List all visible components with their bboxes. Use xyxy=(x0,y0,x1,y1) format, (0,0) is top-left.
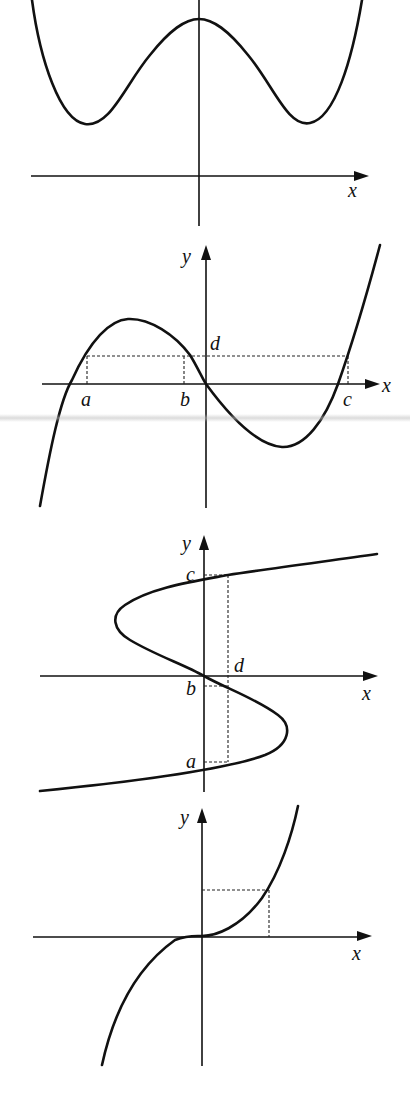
x-axis-arrow-icon xyxy=(365,379,380,389)
figure-cubic-three-roots: y x d a b c xyxy=(0,230,410,520)
label-b: b xyxy=(186,677,196,699)
label-a: a xyxy=(81,388,91,410)
x-axis-label: x xyxy=(347,179,357,201)
x-axis-label: x xyxy=(361,682,371,704)
x-axis-arrow-icon xyxy=(357,931,372,941)
cubic-curve xyxy=(40,245,380,506)
label-c: c xyxy=(186,563,195,585)
x-axis-arrow-icon xyxy=(363,671,378,681)
figure-sideways-cubic: y x d c b a xyxy=(0,520,410,800)
y-axis-arrow-icon xyxy=(201,245,211,260)
label-b: b xyxy=(180,388,190,410)
label-c: c xyxy=(343,388,352,410)
x-axis-label: x xyxy=(351,942,361,964)
x-axis-label: x xyxy=(381,374,391,396)
y-axis-label: y xyxy=(180,532,191,555)
y-axis-arrow-icon xyxy=(197,808,207,823)
figure-quartic: x xyxy=(0,0,410,230)
page-crease xyxy=(0,414,410,422)
figure-cubic-monotone: y x xyxy=(0,800,410,1120)
label-d: d xyxy=(210,332,221,354)
quartic-curve xyxy=(32,0,362,124)
label-a: a xyxy=(186,750,196,772)
y-axis-label: y xyxy=(180,245,191,268)
label-d: d xyxy=(234,654,245,676)
y-axis-label: y xyxy=(178,806,189,829)
y-axis-arrow-icon xyxy=(199,535,209,550)
sideways-cubic-curve xyxy=(40,554,377,791)
